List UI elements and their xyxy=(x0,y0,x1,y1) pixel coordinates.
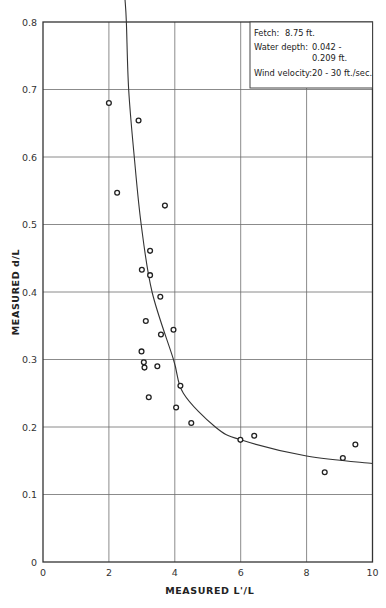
y-tick-label: 0.4 xyxy=(22,287,37,298)
grid-lines xyxy=(43,22,373,562)
x-tick-label: 0 xyxy=(40,567,46,578)
annotation-box: Fetch:8.75 ft.Water depth:0.042 -0.209 f… xyxy=(250,22,373,88)
annotation-value: 20 - 30 ft./sec. xyxy=(312,68,372,78)
x-tick-label: 6 xyxy=(238,567,244,578)
chart: 00.10.20.30.40.50.60.70.8 0246810 Fetch:… xyxy=(0,0,386,608)
data-point xyxy=(115,190,120,195)
annotation-label: Water depth: xyxy=(254,42,308,52)
data-point xyxy=(141,360,146,365)
x-axis-ticks: 0246810 xyxy=(40,567,379,578)
annotation-value: 8.75 ft. xyxy=(285,28,315,38)
data-point xyxy=(178,383,183,388)
x-tick-label: 4 xyxy=(172,567,178,578)
annotation-value: 0.042 - xyxy=(312,42,341,52)
data-point xyxy=(107,101,112,106)
data-point xyxy=(252,433,257,438)
y-tick-label: 0.3 xyxy=(22,354,37,365)
data-point xyxy=(171,327,176,332)
data-point xyxy=(159,332,164,337)
data-point xyxy=(136,118,141,123)
y-tick-label: 0.1 xyxy=(22,489,37,500)
y-axis-ticks: 00.10.20.30.40.50.60.70.8 xyxy=(22,17,37,568)
data-point xyxy=(353,442,358,447)
y-tick-label: 0.8 xyxy=(22,17,37,28)
data-point xyxy=(340,456,345,461)
y-tick-label: 0.5 xyxy=(22,219,37,230)
data-point xyxy=(322,470,327,475)
data-point xyxy=(189,421,194,426)
y-tick-label: 0 xyxy=(31,557,37,568)
data-point xyxy=(148,248,153,253)
data-point xyxy=(163,203,168,208)
data-point xyxy=(139,349,144,354)
x-tick-label: 8 xyxy=(304,567,310,578)
y-tick-label: 0.2 xyxy=(22,422,37,433)
data-point xyxy=(142,365,147,370)
y-tick-label: 0.7 xyxy=(22,84,37,95)
data-point xyxy=(238,437,243,442)
x-tick-label: 2 xyxy=(106,567,112,578)
data-point xyxy=(143,319,148,324)
data-point xyxy=(155,364,160,369)
annotation-label: Wind velocity: xyxy=(254,68,312,78)
y-tick-label: 0.6 xyxy=(22,152,37,163)
annotation-value: 0.209 ft. xyxy=(312,53,347,63)
x-axis-title: MEASURED L'/L xyxy=(165,585,254,596)
x-tick-label: 10 xyxy=(366,567,378,578)
annotation-label: Fetch: xyxy=(254,28,279,38)
y-axis-title: MEASURED d/L xyxy=(10,249,21,335)
data-point xyxy=(158,294,163,299)
data-point xyxy=(146,395,151,400)
data-point xyxy=(148,273,153,278)
data-point xyxy=(139,267,144,272)
data-point xyxy=(174,405,179,410)
